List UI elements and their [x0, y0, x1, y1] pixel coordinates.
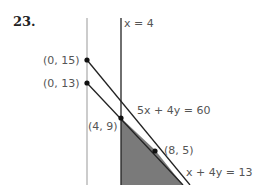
point-4-9 — [118, 115, 123, 120]
label-point-8-5: (8, 5) — [164, 144, 194, 157]
label-line-x-4y-13: x + 4y = 13 — [186, 166, 252, 179]
label-point-4-9: (4, 9) — [88, 120, 118, 133]
label-x-equals-4: x = 4 — [124, 17, 154, 30]
label-line-5x-4y-60: 5x + 4y = 60 — [137, 104, 210, 117]
label-point-0-15: (0, 15) — [43, 54, 80, 67]
point-0-13 — [84, 80, 89, 85]
feasible-region-diagram: x = 4 (0, 15) (0, 13) 5x + 4y = 60 (4, 9… — [0, 0, 273, 185]
point-8-5 — [152, 148, 157, 153]
point-0-15 — [84, 57, 89, 62]
label-point-0-13: (0, 13) — [43, 77, 80, 90]
